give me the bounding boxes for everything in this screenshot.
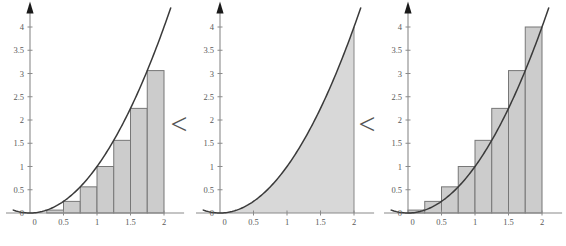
riemann-bar [97, 167, 114, 214]
riemann-bar [147, 71, 164, 213]
x-tick-label: 1.5 [503, 217, 514, 227]
x-tick-label: 0 [411, 217, 415, 227]
riemann-bar [475, 140, 492, 213]
y-tick-label: 3.5 [13, 45, 24, 55]
y-tick-label: 0 [210, 208, 214, 218]
y-tick-label: 2 [210, 115, 214, 125]
y-tick-label: 1.5 [13, 138, 24, 148]
riemann-bar [114, 140, 131, 213]
y-tick-label: 3 [20, 69, 24, 79]
x-tick-label: 2 [352, 217, 356, 227]
y-tick-label: 3.5 [203, 45, 214, 55]
upper-sum-bars [408, 27, 542, 213]
riemann-bar [525, 27, 542, 213]
y-tick-label: 2 [20, 115, 24, 125]
lower-sum-bars [47, 71, 164, 213]
riemann-sum-figure: 00.511.522.533.5400.511.52 < 00.511.522.… [0, 0, 566, 246]
chart-panel-exact-area: 00.511.522.533.5400.511.52 [190, 0, 376, 246]
y-tick-label: 0.5 [13, 185, 24, 195]
x-tick-label: 1 [473, 217, 477, 227]
riemann-bar [458, 167, 475, 214]
x-tick-label: 2 [540, 217, 544, 227]
y-tick-label: 0 [20, 208, 24, 218]
x-tick-label: 1.5 [315, 217, 326, 227]
relation-less-than-2: < [356, 104, 378, 144]
y-tick-label: 1 [20, 162, 24, 172]
y-tick-label: 3.5 [391, 45, 402, 55]
y-tick-label: 0.5 [391, 185, 402, 195]
y-tick-label: 2 [398, 115, 402, 125]
exact-area-fill [220, 27, 354, 213]
y-tick-label: 2.5 [391, 92, 402, 102]
y-tick-label: 2.5 [13, 92, 24, 102]
y-tick-label: 3 [210, 69, 214, 79]
x-tick-label: 0.5 [436, 217, 447, 227]
x-tick-label: 0.5 [58, 217, 69, 227]
riemann-bar [80, 187, 97, 213]
y-tick-label: 3 [398, 69, 402, 79]
x-tick-label: 0 [33, 217, 37, 227]
relation-less-than-1: < [168, 104, 190, 144]
y-tick-label: 4 [398, 22, 403, 32]
upper-sum-svg: 00.511.522.533.5400.511.52 [378, 0, 564, 246]
exact-area-svg: 00.511.522.533.5400.511.52 [190, 0, 376, 246]
lower-sum-svg: 00.511.522.533.5400.511.52 [0, 0, 186, 246]
riemann-bar [64, 201, 81, 213]
x-tick-label: 0 [223, 217, 227, 227]
chart-panel-upper-sum: 00.511.522.533.5400.511.52 [378, 0, 564, 246]
x-tick-label: 1 [95, 217, 99, 227]
y-tick-label: 4 [210, 22, 215, 32]
y-tick-label: 0 [398, 208, 402, 218]
y-tick-label: 0.5 [203, 185, 214, 195]
y-tick-label: 1 [398, 162, 402, 172]
chart-panel-lower-sum: 00.511.522.533.5400.511.52 [0, 0, 186, 246]
y-tick-label: 1.5 [203, 138, 214, 148]
y-tick-label: 1 [210, 162, 214, 172]
x-tick-label: 1.5 [125, 217, 136, 227]
x-tick-label: 0.5 [248, 217, 259, 227]
x-tick-label: 2 [162, 217, 166, 227]
y-tick-label: 4 [20, 22, 25, 32]
y-tick-label: 2.5 [203, 92, 214, 102]
riemann-bar [131, 108, 148, 213]
area-under-curve [220, 27, 354, 213]
x-tick-label: 1 [285, 217, 289, 227]
y-tick-label: 1.5 [391, 138, 402, 148]
